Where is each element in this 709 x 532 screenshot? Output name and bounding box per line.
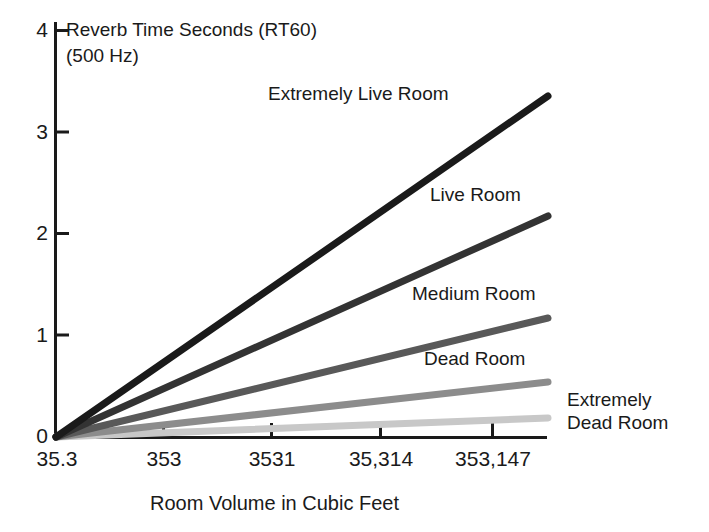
y-tick-label-1: 1 — [18, 323, 48, 348]
series-label-dead-room: Dead Room — [424, 348, 525, 370]
series-label-extremely-dead-room-line2: Dead Room — [567, 412, 668, 434]
series-line-extremely-live-room — [56, 96, 548, 437]
y-tick-label-2: 2 — [18, 221, 48, 246]
x-tick-label-353: 353 — [128, 447, 200, 472]
y-tick-label-3: 3 — [18, 120, 48, 145]
series-label-live-room: Live Room — [430, 184, 521, 206]
series-label-extremely-live-room: Extremely Live Room — [268, 83, 449, 105]
chart-subtitle: (500 Hz) — [66, 45, 139, 67]
series-label-extremely-dead-room-line1: Extremely — [567, 389, 651, 411]
y-tick-label-0: 0 — [18, 424, 48, 449]
y-tick-label-4: 4 — [18, 18, 48, 43]
chart-title: Reverb Time Seconds (RT60) — [66, 19, 317, 41]
reverb-time-chart: Reverb Time Seconds (RT60) (500 Hz) 4 3 … — [0, 0, 709, 532]
y-axis-ticks — [55, 31, 69, 336]
x-tick-label-3531: 3531 — [230, 447, 314, 472]
series-line-live-room — [56, 216, 548, 437]
x-axis-title: Room Volume in Cubic Feet — [150, 492, 399, 516]
x-tick-label-353147: 353,147 — [433, 447, 553, 472]
x-tick-label-35-3: 35.3 — [22, 447, 92, 472]
series-lines — [56, 96, 548, 437]
x-tick-label-35314: 35,314 — [327, 447, 435, 472]
series-label-medium-room: Medium Room — [412, 283, 536, 305]
